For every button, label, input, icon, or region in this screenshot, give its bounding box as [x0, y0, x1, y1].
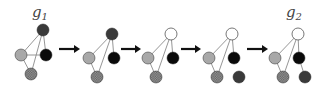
- node-top-dark: [106, 28, 118, 40]
- arrows: [59, 45, 268, 53]
- graph-1-g1: [15, 24, 52, 80]
- node-top-white: [165, 28, 177, 40]
- node-bottom-checkered: [211, 71, 223, 83]
- node-bottom-checkered: [91, 71, 103, 83]
- node-top-dark: [37, 24, 49, 36]
- node-left-light: [203, 52, 215, 64]
- graph-label-g2: g2: [286, 3, 302, 22]
- arrow-icon: [121, 45, 141, 53]
- arrow-icon: [59, 45, 80, 53]
- graph-label-g1: g1: [32, 3, 48, 22]
- graph-5-g2: [269, 28, 311, 83]
- node-right-black: [40, 49, 52, 61]
- node-right-black: [167, 52, 179, 64]
- graph-2: [83, 28, 120, 83]
- node-right-black: [108, 52, 120, 64]
- arrow-icon: [181, 45, 201, 53]
- node-top-white: [226, 28, 238, 40]
- node-right-black: [228, 52, 240, 64]
- node-left-light: [142, 52, 154, 64]
- node-left-light: [83, 52, 95, 64]
- node-left-light: [15, 49, 27, 61]
- node-left-light: [269, 52, 281, 64]
- node-bottom-checkered: [25, 68, 37, 80]
- graph-3: [142, 28, 179, 83]
- node-right-black: [293, 52, 305, 64]
- node-extra-dark: [233, 71, 245, 83]
- node-bottom-checkered: [150, 71, 162, 83]
- graph-transformation-diagram: g1g2: [0, 0, 326, 88]
- graph-labels: g1g2: [32, 3, 302, 22]
- node-top-white: [292, 28, 304, 40]
- graphs: [15, 24, 311, 83]
- node-bottom-checkered: [277, 71, 289, 83]
- node-extra-dark: [299, 71, 311, 83]
- graph-4: [203, 28, 245, 83]
- arrow-icon: [247, 45, 268, 53]
